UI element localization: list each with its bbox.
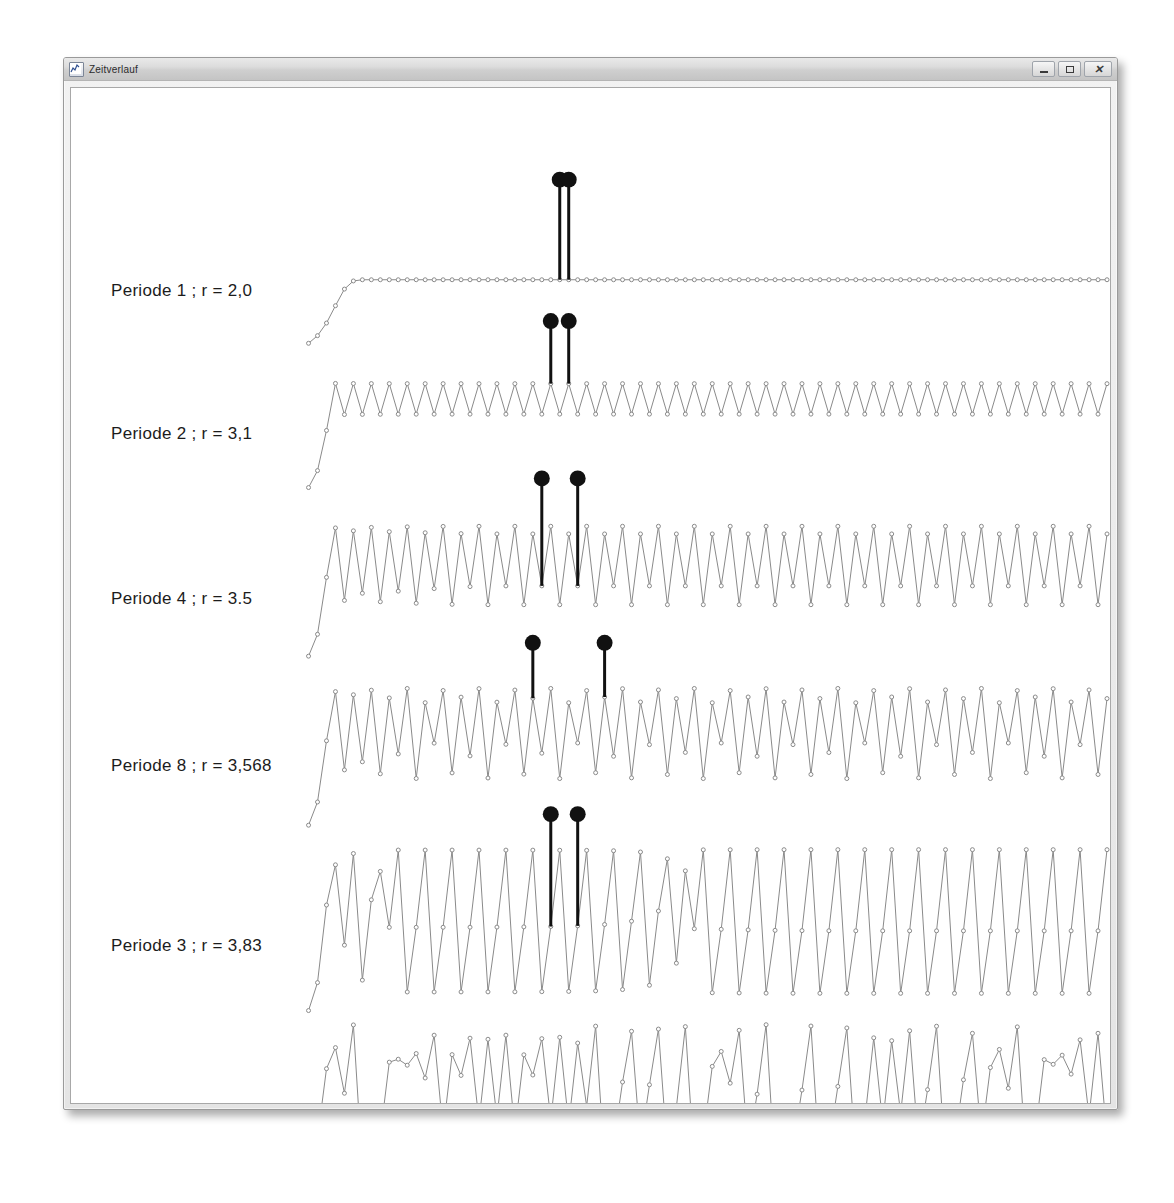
series-line xyxy=(309,688,1107,825)
data-point-marker xyxy=(1087,278,1091,282)
data-point-marker xyxy=(630,776,634,780)
data-point-marker xyxy=(988,777,992,781)
data-point-marker xyxy=(809,772,813,776)
data-point-marker xyxy=(612,849,616,853)
data-point-marker xyxy=(414,278,418,282)
data-point-marker xyxy=(773,928,777,932)
data-point-marker xyxy=(970,1031,974,1035)
data-point-marker xyxy=(827,584,831,588)
data-point-marker xyxy=(854,532,858,536)
data-point-marker xyxy=(576,278,580,282)
data-point-marker xyxy=(558,603,562,607)
data-point-marker xyxy=(423,531,427,535)
data-point-marker xyxy=(441,278,445,282)
data-point-marker xyxy=(522,925,526,929)
data-point-marker xyxy=(836,848,840,852)
data-point-marker xyxy=(854,382,858,386)
data-point-marker xyxy=(961,1078,965,1082)
data-point-marker xyxy=(836,1084,840,1088)
data-point-marker xyxy=(396,752,400,756)
data-point-marker xyxy=(935,412,939,416)
data-point-marker xyxy=(423,701,427,705)
data-point-marker xyxy=(979,524,983,528)
data-point-marker xyxy=(656,524,660,528)
data-point-marker xyxy=(997,532,1001,536)
data-point-marker xyxy=(360,760,364,764)
data-point-marker xyxy=(665,603,669,607)
data-point-marker xyxy=(638,850,642,854)
maximize-button[interactable] xyxy=(1058,61,1081,77)
data-point-marker xyxy=(728,689,732,693)
data-point-marker xyxy=(495,925,499,929)
data-point-marker xyxy=(656,278,660,282)
data-point-marker xyxy=(737,1028,741,1032)
minimize-button[interactable] xyxy=(1032,61,1055,77)
data-point-marker xyxy=(387,278,391,282)
data-point-marker xyxy=(935,1024,939,1028)
zeitverlauf-window: Zeitverlauf ✕ Periode 1 ; r = 2,0Periode… xyxy=(63,57,1118,1110)
data-point-marker xyxy=(818,382,822,386)
data-point-marker xyxy=(926,1088,930,1092)
data-point-marker xyxy=(432,1033,436,1037)
data-point-marker xyxy=(342,768,346,772)
data-point-marker xyxy=(567,701,571,705)
data-point-marker xyxy=(809,1024,813,1028)
data-point-marker xyxy=(1033,695,1037,699)
data-point-marker xyxy=(594,412,598,416)
data-point-marker xyxy=(477,848,481,852)
data-point-marker xyxy=(719,584,723,588)
data-point-marker xyxy=(899,412,903,416)
chart-icon xyxy=(69,62,84,77)
data-point-marker xyxy=(594,989,598,993)
data-point-marker xyxy=(387,925,391,929)
data-point-marker xyxy=(952,772,956,776)
data-point-marker xyxy=(710,278,714,282)
data-point-marker xyxy=(1096,929,1100,933)
close-button[interactable]: ✕ xyxy=(1084,61,1112,77)
data-point-marker xyxy=(800,524,804,528)
data-point-marker xyxy=(459,1073,463,1077)
data-point-marker xyxy=(791,412,795,416)
series-label-2: Periode 2 ; r = 3,1 xyxy=(111,424,252,444)
data-point-marker xyxy=(746,532,750,536)
data-point-marker xyxy=(970,584,974,588)
data-point-marker xyxy=(540,278,544,282)
data-point-marker xyxy=(836,382,840,386)
data-point-marker xyxy=(504,848,508,852)
data-point-marker xyxy=(477,687,481,691)
data-point-marker xyxy=(567,532,571,536)
data-point-marker xyxy=(827,929,831,933)
data-point-marker xyxy=(1060,991,1064,995)
data-point-marker xyxy=(890,382,894,386)
data-point-marker xyxy=(917,603,921,607)
window-titlebar[interactable]: Zeitverlauf ✕ xyxy=(64,58,1117,81)
data-point-marker xyxy=(1015,278,1019,282)
data-point-marker xyxy=(513,382,517,386)
data-point-marker xyxy=(477,278,481,282)
data-point-marker xyxy=(603,532,607,536)
data-point-marker xyxy=(755,848,759,852)
data-point-marker xyxy=(952,991,956,995)
data-point-marker xyxy=(594,603,598,607)
data-point-marker xyxy=(351,852,355,856)
data-point-marker xyxy=(961,697,965,701)
data-point-marker xyxy=(1105,382,1109,386)
data-point-marker xyxy=(710,1064,714,1068)
data-point-marker xyxy=(459,990,463,994)
data-point-marker xyxy=(845,278,849,282)
data-point-marker xyxy=(908,524,912,528)
data-point-marker xyxy=(468,412,472,416)
data-point-marker xyxy=(764,991,768,995)
data-point-marker xyxy=(683,869,687,873)
data-point-marker xyxy=(926,532,930,536)
data-point-marker xyxy=(818,697,822,701)
data-point-marker xyxy=(477,382,481,386)
data-point-marker xyxy=(432,278,436,282)
data-point-marker xyxy=(683,278,687,282)
data-point-marker xyxy=(782,848,786,852)
data-point-marker xyxy=(1078,1038,1082,1042)
data-point-marker xyxy=(432,741,436,745)
data-point-marker xyxy=(540,412,544,416)
data-point-marker xyxy=(692,524,696,528)
data-point-marker xyxy=(836,686,840,690)
